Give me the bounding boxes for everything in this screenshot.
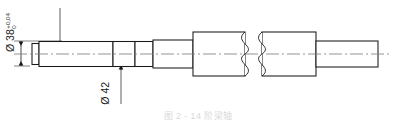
dimension-value-d38: 38 xyxy=(4,29,16,41)
dimension-label-d42: Ø 42 xyxy=(100,82,111,105)
figure-caption: 图 2 - 14 阶梁轴 xyxy=(0,109,396,120)
arrowhead-d38-bottom xyxy=(19,61,24,66)
tolerance-stack-d38: +0,04 0 xyxy=(4,13,17,29)
technical-drawing: Ø 38 +0,04 0 Ø 42 图 2 - 14 阶梁轴 xyxy=(0,0,396,120)
dimension-label-d38: Ø 38 +0,04 0 xyxy=(5,13,18,52)
dimension-value-d42: 42 xyxy=(99,82,111,94)
diameter-symbol-d38: Ø xyxy=(4,44,16,52)
tolerance-lower-d38: 0 xyxy=(11,13,18,29)
diameter-symbol-d42: Ø xyxy=(99,96,111,104)
shaft-drawing-canvas xyxy=(0,0,396,120)
arrowhead-d38-top xyxy=(19,42,24,47)
